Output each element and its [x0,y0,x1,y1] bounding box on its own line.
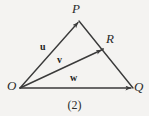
point-label-Q: Q [134,80,143,93]
vector-triangle-figure: P O Q R u v w (2) [0,0,149,116]
point-label-O: O [7,79,16,92]
point-R-marker [102,48,104,50]
vector-label-v: v [57,55,62,65]
figure-caption: (2) [0,99,149,111]
vector-label-u: u [40,42,46,52]
point-label-R: R [106,32,114,45]
vector-label-w: w [70,73,77,83]
point-label-P: P [72,2,80,15]
